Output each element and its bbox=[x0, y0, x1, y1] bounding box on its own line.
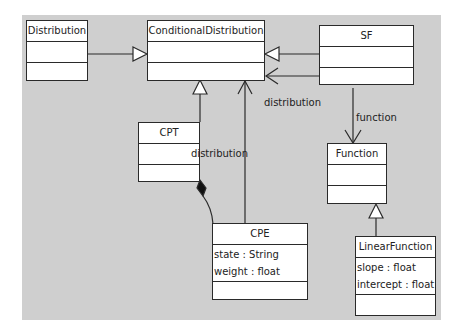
class-operations bbox=[356, 295, 435, 315]
attribute-intercept: intercept : float bbox=[357, 276, 434, 293]
attribute-slope: slope : float bbox=[357, 259, 434, 276]
attribute-weight: weight : float bbox=[214, 263, 306, 280]
attribute-state: state : String bbox=[214, 246, 306, 263]
class-distribution[interactable]: Distribution bbox=[26, 20, 88, 81]
class-operations bbox=[139, 165, 199, 181]
class-conditional-distribution[interactable]: ConditionalDistribution bbox=[147, 20, 265, 81]
class-attributes bbox=[27, 42, 87, 63]
class-name: CPE bbox=[213, 224, 307, 245]
class-function[interactable]: Function bbox=[327, 143, 387, 204]
class-operations bbox=[320, 68, 413, 84]
class-sf[interactable]: SF bbox=[319, 25, 414, 85]
class-name: CPT bbox=[139, 123, 199, 144]
class-name: SF bbox=[320, 26, 413, 47]
class-attributes bbox=[148, 42, 264, 63]
class-name: Function bbox=[328, 144, 386, 165]
label-cpe-distribution: distribution bbox=[191, 148, 248, 159]
class-operations bbox=[213, 282, 307, 299]
class-name: ConditionalDistribution bbox=[148, 21, 264, 42]
class-attributes: slope : float intercept : float bbox=[356, 258, 435, 295]
class-linear-function[interactable]: LinearFunction slope : float intercept :… bbox=[355, 236, 436, 316]
label-sf-distribution: distribution bbox=[264, 97, 321, 108]
class-attributes bbox=[320, 47, 413, 68]
class-attributes bbox=[139, 144, 199, 165]
class-attributes: state : String weight : float bbox=[213, 245, 307, 282]
class-operations bbox=[328, 186, 386, 203]
label-sf-function: function bbox=[356, 112, 397, 123]
class-name: LinearFunction bbox=[356, 237, 435, 258]
class-operations bbox=[27, 63, 87, 80]
class-operations bbox=[148, 63, 264, 80]
class-cpe[interactable]: CPE state : String weight : float bbox=[212, 223, 308, 300]
class-name: Distribution bbox=[27, 21, 87, 42]
class-attributes bbox=[328, 165, 386, 186]
